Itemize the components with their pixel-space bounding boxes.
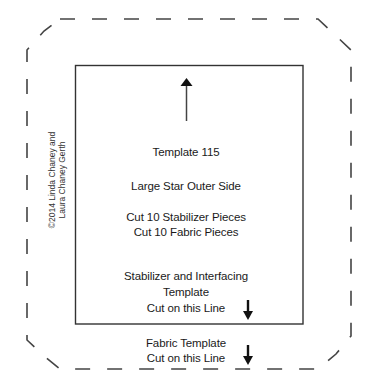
cut-instruction-fabric: Cut 10 Fabric Pieces bbox=[75, 225, 297, 239]
copyright-line-1: ©2014 Linda Chaney and bbox=[47, 125, 57, 235]
inner-label-line-1: Stabilizer and Interfacing bbox=[75, 269, 297, 283]
arrow-up-icon bbox=[181, 78, 193, 121]
copyright-line-2: Laura Chaney Gerth bbox=[57, 125, 67, 235]
outer-label-line-2: Cut on this Line bbox=[75, 351, 297, 365]
inner-label-line-3: Cut on this Line bbox=[75, 301, 297, 315]
outer-label-line-1: Fabric Template bbox=[75, 336, 297, 350]
template-title: Template 115 bbox=[75, 145, 297, 159]
template-name: Large Star Outer Side bbox=[75, 179, 297, 193]
cut-instruction-stabilizer: Cut 10 Stabilizer Pieces bbox=[75, 210, 297, 224]
copyright-text: ©2014 Linda Chaney and Laura Chaney Gert… bbox=[47, 125, 67, 235]
inner-label-line-2: Template bbox=[75, 285, 297, 299]
